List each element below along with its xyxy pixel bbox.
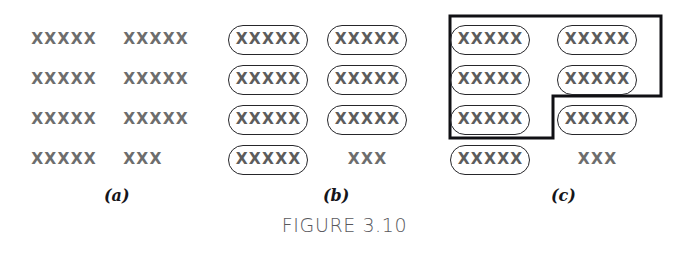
grouped-oval: XXXXX bbox=[228, 65, 308, 95]
grouped-oval: XXXXX bbox=[327, 25, 407, 55]
marker-group-label: XXXXX bbox=[30, 32, 97, 48]
grouped-oval: XXXXX bbox=[450, 65, 530, 95]
marker-group-label: XXXXX bbox=[122, 32, 189, 48]
marker-group-label: XXXXX bbox=[122, 112, 189, 128]
marker-group-label: XXXXX bbox=[30, 112, 97, 128]
marker-group-label: XXXXX bbox=[457, 32, 524, 48]
grouped-oval: XXXXX bbox=[327, 105, 407, 135]
group-row: XXXXX XXX bbox=[0, 145, 220, 175]
marker-group-label: XXXXX bbox=[122, 72, 189, 88]
marker-group-label: XXX bbox=[577, 152, 618, 168]
panel-letter-a: (a) bbox=[104, 186, 130, 205]
marker-group-label: XXXXX bbox=[30, 72, 97, 88]
panel-b: XXXXX XXXXX XXXXX XXXXX XXXXX XXXXX XXXX… bbox=[220, 0, 440, 186]
group-cell: XXXXX bbox=[30, 145, 112, 175]
marker-group-label: XXXXX bbox=[334, 72, 401, 88]
grouped-oval: XXXXX bbox=[557, 25, 637, 55]
group-cell: XXXXX bbox=[30, 65, 112, 95]
group-cell-remainder: XXX bbox=[122, 145, 204, 175]
marker-group-label: XXXXX bbox=[564, 32, 631, 48]
group-row: XXXXX XXX bbox=[440, 145, 689, 175]
grouped-oval: XXXXX bbox=[228, 145, 308, 175]
group-row: XXXXX XXXXX bbox=[220, 105, 440, 135]
figure-3-10: XXXXX XXXXX XXXXX XXXXX XXXXX XXXXX XXXX… bbox=[0, 0, 689, 260]
marker-group-label: XXXXX bbox=[235, 112, 302, 128]
group-cell: XXXXX bbox=[30, 25, 112, 55]
grouped-oval: XXXXX bbox=[557, 105, 637, 135]
group-cell: XXXXX bbox=[122, 25, 204, 55]
marker-group-label: XXXXX bbox=[564, 72, 631, 88]
group-row: XXXXX XXXXX bbox=[0, 105, 220, 135]
grouped-oval: XXXXX bbox=[228, 25, 308, 55]
grouped-oval: XXXXX bbox=[450, 105, 530, 135]
group-row: XXXXX XXX bbox=[220, 145, 440, 175]
marker-group-label: XXXXX bbox=[334, 112, 401, 128]
marker-group-label: XXXXX bbox=[457, 112, 524, 128]
group-cell: XXXXX bbox=[122, 65, 204, 95]
grouped-oval: XXXXX bbox=[557, 65, 637, 95]
group-row: XXXXX XXXXX bbox=[440, 105, 689, 135]
grouped-oval: XXXXX bbox=[450, 25, 530, 55]
marker-group-label: XXX bbox=[347, 152, 388, 168]
group-row: XXXXX XXXXX bbox=[220, 25, 440, 55]
group-row: XXXXX XXXXX bbox=[440, 65, 689, 95]
group-row: XXXXX XXXXX bbox=[440, 25, 689, 55]
group-cell: XXXXX bbox=[30, 105, 112, 135]
marker-group-label: XXXXX bbox=[334, 32, 401, 48]
group-cell-remainder: XXX bbox=[557, 145, 637, 175]
group-row: XXXXX XXXXX bbox=[0, 25, 220, 55]
marker-group-label: XXXXX bbox=[457, 152, 524, 168]
panel-c: XXXXX XXXXX XXXXX XXXXX XXXXX XXXXX XXXX… bbox=[440, 0, 689, 186]
group-row: XXXXX XXXXX bbox=[0, 65, 220, 95]
panel-letter-b: (b) bbox=[323, 186, 349, 205]
figure-caption: FIGURE 3.10 bbox=[0, 214, 689, 236]
marker-group-label: XXXXX bbox=[235, 32, 302, 48]
group-cell: XXXXX bbox=[122, 105, 204, 135]
grouped-oval: XXXXX bbox=[450, 145, 530, 175]
marker-group-label: XXXXX bbox=[564, 112, 631, 128]
panel-a: XXXXX XXXXX XXXXX XXXXX XXXXX XXXXX XXXX… bbox=[0, 0, 220, 186]
panel-letter-c: (c) bbox=[551, 186, 576, 205]
group-row: XXXXX XXXXX bbox=[220, 65, 440, 95]
marker-group-label: XXX bbox=[122, 152, 163, 168]
marker-group-label: XXXXX bbox=[235, 152, 302, 168]
marker-group-label: XXXXX bbox=[235, 72, 302, 88]
grouped-oval: XXXXX bbox=[327, 65, 407, 95]
group-cell-remainder: XXX bbox=[327, 145, 407, 175]
grouped-oval: XXXXX bbox=[228, 105, 308, 135]
marker-group-label: XXXXX bbox=[30, 152, 97, 168]
marker-group-label: XXXXX bbox=[457, 72, 524, 88]
